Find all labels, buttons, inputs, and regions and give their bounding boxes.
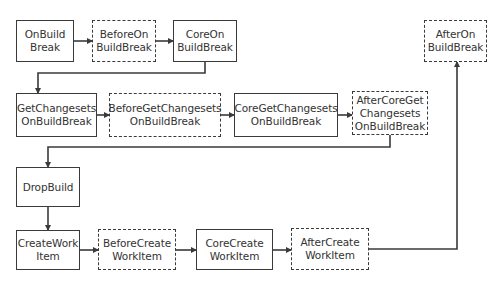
node-core-get-changesets-on-build-break: CoreGetChangesets OnBuildBreak xyxy=(234,93,338,137)
node-core-on-build-break: CoreOn BuildBreak xyxy=(173,20,237,62)
node-after-core-get-changesets-on-build-break: AfterCoreGet Changesets OnBuildBreak xyxy=(352,91,428,135)
node-before-create-work-item: BeforeCreate WorkItem xyxy=(98,229,176,270)
node-create-work-item: CreateWork Item xyxy=(16,230,80,270)
node-after-on-build-break: AfterOn BuildBreak xyxy=(424,20,487,62)
node-before-get-changesets-on-build-break: BeforeGetChangesets OnBuildBreak xyxy=(109,93,221,137)
node-after-create-work-item: AfterCreate WorkItem xyxy=(291,228,369,270)
node-core-create-work-item: CoreCreate WorkItem xyxy=(196,229,273,270)
node-get-changesets-on-build-break: GetChangesets OnBuildBreak xyxy=(16,93,97,137)
connector-arrow xyxy=(48,135,390,167)
connector-arrow xyxy=(38,62,205,93)
node-on-build-break: OnBuild Break xyxy=(16,20,74,62)
node-before-on-build-break: BeforeOn BuildBreak xyxy=(92,20,156,62)
node-drop-build: DropBuild xyxy=(16,167,80,207)
flowchart-canvas: OnBuild Break BeforeOn BuildBreak CoreOn… xyxy=(0,0,502,287)
